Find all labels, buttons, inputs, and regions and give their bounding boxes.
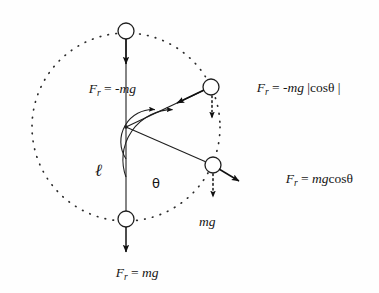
angle-arc-outer: [123, 110, 173, 177]
label-upper-right-force: Fr = -mg |cosθ |: [233, 80, 357, 97]
bob-bottom: [118, 211, 134, 227]
figure-root: Fr = -mg Fr = -mg |cosθ | Fr = mgcosθ Fr…: [0, 0, 379, 293]
pendulum-force-diagram: Fr = -mg Fr = -mg |cosθ | Fr = mgcosθ Fr…: [0, 0, 379, 293]
label-angle-theta: θ: [152, 176, 160, 191]
bob-lower-right: [205, 157, 221, 173]
force-arrow-upper-right: [177, 90, 204, 103]
label-top-force: Fr = -mg: [65, 81, 153, 98]
label-weight-mg: mg: [199, 214, 216, 229]
label-rod-length: ℓ: [95, 161, 102, 180]
bob-top: [118, 23, 134, 39]
force-arrow-lower-right: [219, 169, 239, 181]
label-lower-right-force: Fr = mgcosθ: [262, 171, 370, 188]
label-bottom-force: Fr = mg: [92, 265, 175, 282]
bob-upper-right: [203, 79, 219, 95]
rod-to-lower-right-bob: [126, 127, 213, 165]
